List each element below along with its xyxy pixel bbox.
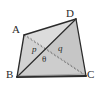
vertex-label-b: B: [6, 69, 13, 80]
measure-label-p: p: [32, 45, 37, 54]
vertex-label-a: A: [12, 24, 20, 35]
geometry-figure: A D B C p q θ: [0, 0, 103, 89]
vertex-label-c: C: [87, 69, 94, 80]
edge-B-C: [17, 76, 86, 77]
angle-label-theta: θ: [42, 55, 46, 64]
vertex-label-d: D: [66, 8, 74, 19]
measure-label-q: q: [58, 44, 63, 53]
